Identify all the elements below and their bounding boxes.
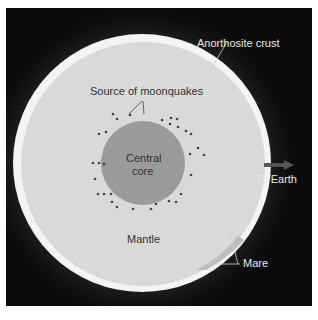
label-mare: Mare <box>243 258 268 269</box>
label-mantle: Mantle <box>127 234 160 245</box>
label-central-core-line1: Central <box>126 153 161 164</box>
label-central-core-line2: core <box>132 166 153 177</box>
label-to-earth: To Earth <box>256 174 297 185</box>
diagram-panel: Anorthosite crust Source of moonquakes C… <box>6 8 312 306</box>
label-anorthosite-crust: Anorthosite crust <box>197 38 280 49</box>
label-source-of-moonquakes: Source of moonquakes <box>90 86 203 97</box>
